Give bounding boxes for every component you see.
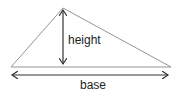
base-label: base [80,79,106,91]
height-label: height [68,34,101,46]
